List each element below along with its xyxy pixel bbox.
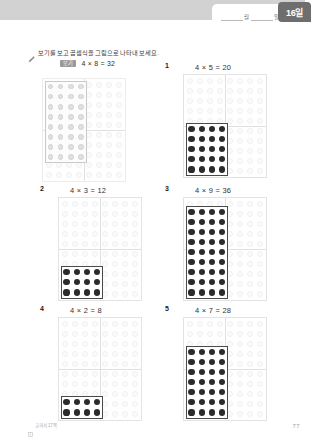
ghost-dot[interactable] xyxy=(247,251,253,257)
ghost-dot[interactable] xyxy=(96,152,102,158)
ghost-dot[interactable] xyxy=(237,108,243,114)
filled-dot[interactable] xyxy=(84,279,90,285)
filled-dot[interactable] xyxy=(219,369,225,375)
ghost-dot[interactable] xyxy=(92,321,98,327)
ghost-dot[interactable] xyxy=(132,391,138,397)
ghost-dot[interactable] xyxy=(247,108,253,114)
ghost-dot[interactable] xyxy=(257,261,263,267)
filled-dot[interactable] xyxy=(94,289,100,295)
ghost-dot[interactable] xyxy=(217,108,223,114)
filled-dot[interactable] xyxy=(199,359,205,365)
ghost-dot[interactable] xyxy=(237,211,243,217)
filled-dot[interactable] xyxy=(188,259,194,265)
ghost-dot[interactable] xyxy=(217,331,223,337)
ghost-dot[interactable] xyxy=(217,88,223,94)
ghost-dot[interactable] xyxy=(247,371,253,377)
filled-dot[interactable] xyxy=(219,156,225,162)
ghost-dot[interactable] xyxy=(76,172,82,178)
ghost-dot[interactable] xyxy=(122,261,128,267)
ghost-dot[interactable] xyxy=(106,102,112,108)
ghost-dot[interactable] xyxy=(132,251,138,257)
ghost-dot[interactable] xyxy=(257,201,263,207)
filled-dot[interactable] xyxy=(78,84,84,90)
filled-dot[interactable] xyxy=(209,279,215,285)
ghost-dot[interactable] xyxy=(116,132,122,138)
ghost-dot[interactable] xyxy=(247,321,253,327)
ghost-dot[interactable] xyxy=(207,78,213,84)
ghost-dot[interactable] xyxy=(247,78,253,84)
filled-dot[interactable] xyxy=(84,269,90,275)
filled-dot[interactable] xyxy=(209,229,215,235)
ghost-dot[interactable] xyxy=(257,271,263,277)
ghost-dot[interactable] xyxy=(132,221,138,227)
ghost-dot[interactable] xyxy=(82,211,88,217)
filled-dot[interactable] xyxy=(209,136,215,142)
ghost-dot[interactable] xyxy=(72,201,78,207)
ghost-dot[interactable] xyxy=(62,231,68,237)
ghost-dot[interactable] xyxy=(257,411,263,417)
ghost-dot[interactable] xyxy=(237,411,243,417)
ghost-dot[interactable] xyxy=(92,221,98,227)
filled-dot[interactable] xyxy=(199,229,205,235)
ghost-dot[interactable] xyxy=(122,271,128,277)
ghost-dot[interactable] xyxy=(122,291,128,297)
ghost-dot[interactable] xyxy=(102,331,108,337)
filled-dot[interactable] xyxy=(63,289,69,295)
filled-dot[interactable] xyxy=(68,144,74,150)
ghost-dot[interactable] xyxy=(122,361,128,367)
filled-dot[interactable] xyxy=(74,399,80,405)
ghost-dot[interactable] xyxy=(72,361,78,367)
ghost-dot[interactable] xyxy=(237,291,243,297)
ghost-dot[interactable] xyxy=(112,321,118,327)
ghost-dot[interactable] xyxy=(112,291,118,297)
ghost-dot[interactable] xyxy=(46,172,52,178)
ghost-dot[interactable] xyxy=(237,98,243,104)
filled-dot[interactable] xyxy=(78,124,84,130)
ghost-dot[interactable] xyxy=(106,152,112,158)
ghost-dot[interactable] xyxy=(102,231,108,237)
filled-dot[interactable] xyxy=(219,359,225,365)
ghost-dot[interactable] xyxy=(122,221,128,227)
ghost-dot[interactable] xyxy=(82,351,88,357)
ghost-dot[interactable] xyxy=(257,251,263,257)
filled-dot[interactable] xyxy=(199,219,205,225)
ghost-dot[interactable] xyxy=(82,241,88,247)
ghost-dot[interactable] xyxy=(116,162,122,168)
ghost-dot[interactable] xyxy=(207,98,213,104)
ghost-dot[interactable] xyxy=(112,351,118,357)
filled-dot[interactable] xyxy=(188,389,194,395)
filled-dot[interactable] xyxy=(199,239,205,245)
ghost-dot[interactable] xyxy=(106,142,112,148)
ghost-dot[interactable] xyxy=(132,351,138,357)
ghost-dot[interactable] xyxy=(247,381,253,387)
ghost-dot[interactable] xyxy=(132,331,138,337)
ghost-dot[interactable] xyxy=(257,371,263,377)
filled-dot[interactable] xyxy=(48,154,54,160)
ghost-dot[interactable] xyxy=(187,321,193,327)
filled-dot[interactable] xyxy=(58,154,64,160)
ghost-dot[interactable] xyxy=(197,321,203,327)
ghost-dot[interactable] xyxy=(247,231,253,237)
ghost-dot[interactable] xyxy=(237,331,243,337)
ghost-dot[interactable] xyxy=(237,158,243,164)
ghost-dot[interactable] xyxy=(257,341,263,347)
ghost-dot[interactable] xyxy=(257,158,263,164)
ghost-dot[interactable] xyxy=(257,108,263,114)
filled-dot[interactable] xyxy=(68,124,74,130)
filled-dot[interactable] xyxy=(188,219,194,225)
ghost-dot[interactable] xyxy=(132,371,138,377)
ghost-dot[interactable] xyxy=(197,108,203,114)
ghost-dot[interactable] xyxy=(62,251,68,257)
ghost-dot[interactable] xyxy=(257,291,263,297)
ghost-dot[interactable] xyxy=(132,401,138,407)
ghost-dot[interactable] xyxy=(62,331,68,337)
filled-dot[interactable] xyxy=(209,269,215,275)
ghost-dot[interactable] xyxy=(132,361,138,367)
ghost-dot[interactable] xyxy=(122,231,128,237)
filled-dot[interactable] xyxy=(209,359,215,365)
filled-dot[interactable] xyxy=(63,399,69,405)
filled-dot[interactable] xyxy=(58,134,64,140)
ghost-dot[interactable] xyxy=(112,241,118,247)
ghost-dot[interactable] xyxy=(257,138,263,144)
ghost-dot[interactable] xyxy=(247,291,253,297)
